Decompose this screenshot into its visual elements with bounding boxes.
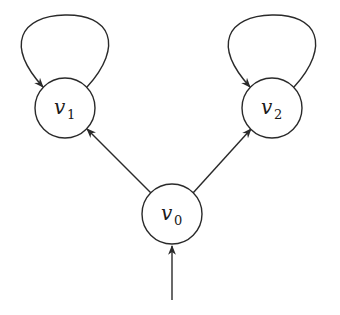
self-loop-v1 (21, 15, 108, 87)
node-v2-subscript: 2 (274, 107, 282, 122)
self-loop-v2 (228, 15, 315, 87)
node-v1: v 1 (35, 78, 95, 138)
edge-v0-v1 (87, 129, 151, 193)
node-v1-label: v (54, 95, 66, 119)
edge-v0-v2 (193, 129, 251, 193)
node-v1-subscript: 1 (67, 107, 75, 122)
node-v0-subscript: 0 (174, 213, 182, 228)
node-v2: v 2 (242, 78, 302, 138)
node-v0: v 0 (142, 184, 202, 244)
state-graph-diagram: v 1 v 2 v 0 (0, 0, 340, 315)
node-v0-label: v (161, 201, 173, 225)
node-v2-label: v (261, 95, 273, 119)
